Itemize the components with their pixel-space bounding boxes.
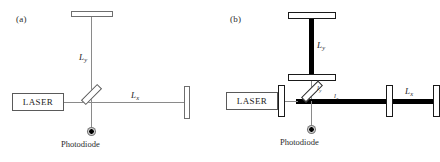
beam-horizontal-arm-a [63,102,186,103]
mirror-x-end-a [184,86,190,119]
mirror-input-left-b [278,85,285,117]
panel-a-label: (a) [16,14,27,24]
photodiode-a [88,128,95,135]
beam-detector-b [311,101,312,129]
photodiode-label-b: Photodiode [280,137,319,147]
arm-label-ly-a: Ly [79,52,87,63]
arm-label-Lx-b-sub: x [410,90,413,97]
panel-b-label: (b) [230,14,241,24]
beam-vertical-cavity-b [309,17,314,78]
arm-label-lx-a: Lx [131,90,139,101]
photodiode-label-text-b: Photodiode [280,137,319,147]
arm-label-lx-a-sub: x [136,94,139,101]
arm-label-ly-a-sub: y [84,56,87,63]
panel-a: (a) LASER Photodiode Ly Lx [0,0,216,162]
mirror-y-input-b [288,74,336,81]
laser-source-a: LASER [12,93,64,111]
panel-b: (b) LASER Photodiode Ly [216,0,433,162]
arm-label-lx-small-b-sub: x [336,96,339,101]
laser-source-b: LASER [226,92,278,110]
photodiode-label-text-a: Photodiode [61,139,100,149]
arm-label-Ly-b: Ly [317,40,325,51]
arm-label-lx-small-b: lx [334,92,338,101]
beam-detector-a [91,102,92,131]
beam-horizontal-cavity-b [389,99,437,104]
mirror-x-input-b [386,85,393,117]
mirror-y-end-b [288,12,336,19]
mirror-x-end-b [433,85,440,117]
mirror-y-end-a [71,11,113,17]
arm-label-Ly-b-sub: y [322,44,325,51]
photodiode-label-a: Photodiode [61,139,100,149]
photodiode-b [308,126,315,133]
arm-label-ly-small-b: ly [317,84,321,93]
arm-label-ly-small-b-sub: y [319,88,322,93]
arm-label-Lx-b: Lx [405,86,413,97]
